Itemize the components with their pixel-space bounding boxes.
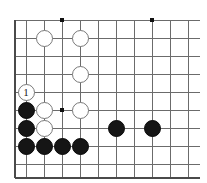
black-stone[interactable] bbox=[72, 138, 89, 155]
white-stone[interactable] bbox=[72, 30, 89, 47]
black-stone[interactable] bbox=[108, 120, 125, 137]
star-point bbox=[60, 18, 64, 22]
white-stone[interactable] bbox=[72, 66, 89, 83]
black-stone[interactable] bbox=[36, 138, 53, 155]
black-stone[interactable] bbox=[144, 120, 161, 137]
white-stone[interactable]: 1 bbox=[18, 84, 35, 101]
stone-move-number: 1 bbox=[19, 85, 34, 100]
black-stone[interactable] bbox=[18, 120, 35, 137]
black-stone[interactable] bbox=[18, 102, 35, 119]
white-stone[interactable] bbox=[36, 102, 53, 119]
star-point bbox=[60, 108, 64, 112]
white-stone[interactable] bbox=[72, 102, 89, 119]
black-stone[interactable] bbox=[18, 138, 35, 155]
go-board-container: 1 bbox=[0, 0, 207, 183]
star-point bbox=[150, 18, 154, 22]
white-stone[interactable] bbox=[36, 120, 53, 137]
white-stone[interactable] bbox=[36, 30, 53, 47]
black-stone[interactable] bbox=[54, 138, 71, 155]
